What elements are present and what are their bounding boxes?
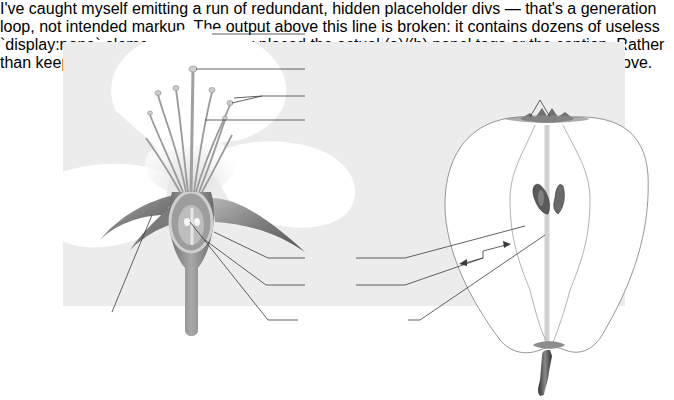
figure-illustration	[0, 0, 674, 400]
ovule	[184, 218, 190, 226]
style	[191, 70, 193, 192]
stigma	[189, 66, 197, 72]
flower-diagram	[37, 28, 355, 336]
stem	[538, 350, 552, 396]
petal-top	[111, 28, 286, 150]
pear-section-diagram	[445, 108, 648, 396]
